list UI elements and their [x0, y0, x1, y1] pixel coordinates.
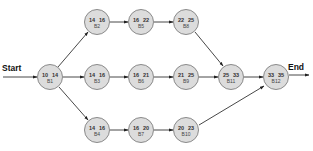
node-b12: 33 35 B12	[264, 65, 289, 90]
node-b5: 16 22 B5	[129, 10, 154, 35]
node-early-finish: 20	[143, 125, 149, 131]
node-b6: 16 21 B6	[129, 65, 154, 90]
node-id: B3	[94, 78, 100, 84]
node-b2: 14 16 B2	[85, 10, 110, 35]
node-id: B5	[138, 23, 144, 29]
node-id: B2	[94, 23, 100, 29]
node-early-finish: 25	[188, 72, 194, 78]
node-id: B8	[183, 23, 189, 29]
edge-b1-b2	[58, 32, 88, 67]
node-id: B6	[138, 78, 144, 84]
node-id: B12	[272, 78, 281, 84]
node-early-start: 22	[178, 17, 184, 23]
node-b10: 20 23 B10	[174, 118, 199, 143]
node-b8: 22 25 B8	[174, 10, 199, 35]
node-early-start: 20	[178, 125, 184, 131]
node-early-start: 16	[133, 17, 139, 23]
node-b7: 16 20 B7	[129, 118, 154, 143]
node-early-start: 14	[89, 72, 96, 78]
end-label: End	[288, 62, 304, 72]
node-b4: 14 16 B4	[85, 118, 110, 143]
node-early-start: 14	[89, 125, 96, 131]
node-id: B1	[47, 78, 53, 84]
node-early-finish: 25	[188, 17, 194, 23]
node-id: B9	[183, 78, 189, 84]
node-early-start: 16	[133, 125, 139, 131]
node-id: B7	[138, 131, 144, 137]
node-early-start: 33	[268, 72, 274, 78]
node-early-finish: 23	[188, 125, 194, 131]
network-diagram: Start End 10 14 B1 14 16 B2 14 16 B3	[0, 0, 313, 151]
node-b3: 14 16 B3	[85, 65, 110, 90]
node-early-finish: 35	[278, 72, 284, 78]
node-early-start: 10	[42, 72, 48, 78]
node-b11: 25 33 B11	[219, 65, 244, 90]
node-b1: 10 14 B1	[38, 65, 63, 90]
node-early-finish: 21	[143, 72, 149, 78]
edge-b8-b11	[195, 32, 223, 66]
node-early-start: 21	[178, 72, 184, 78]
node-early-start: 16	[133, 72, 139, 78]
node-early-start: 14	[89, 17, 96, 23]
node-early-finish: 16	[99, 125, 105, 131]
node-id: B11	[227, 78, 236, 84]
node-b9: 21 25 B9	[174, 65, 199, 90]
edge-b10-b12	[199, 86, 264, 125]
node-early-start: 25	[223, 72, 229, 78]
node-id: B4	[94, 131, 100, 137]
edge-b1-b4	[59, 87, 88, 120]
node-early-finish: 16	[99, 72, 105, 78]
node-id: B10	[182, 131, 191, 137]
node-early-finish: 33	[233, 72, 239, 78]
node-early-finish: 22	[143, 17, 149, 23]
node-early-finish: 16	[99, 17, 105, 23]
start-label: Start	[2, 63, 22, 73]
node-early-finish: 14	[52, 72, 59, 78]
